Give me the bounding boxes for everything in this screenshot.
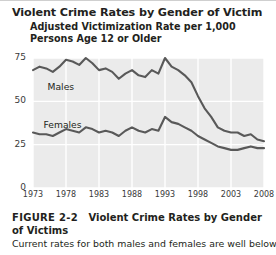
x-tick-1973: 1973 <box>18 190 48 199</box>
line-chart <box>0 54 276 200</box>
series-label-males: Males <box>48 81 75 92</box>
x-tick-1993: 1993 <box>150 190 180 199</box>
y-tick-50: 50 <box>4 95 26 105</box>
caption-figure-number: FIGURE 2-2 <box>12 212 78 223</box>
caption-body: Current rates for both males and females… <box>12 238 270 250</box>
chart-title: Violent Crime Rates by Gender of Victim <box>12 6 262 19</box>
figure-page: Violent Crime Rates by Gender of Victim … <box>0 0 276 255</box>
x-tick-1998: 1998 <box>183 190 213 199</box>
x-tick-2003: 2003 <box>216 190 246 199</box>
chart-subtitle: Adjusted Victimization Rate per 1,000 Pe… <box>30 21 270 44</box>
x-tick-1988: 1988 <box>117 190 147 199</box>
y-tick-75: 75 <box>4 52 26 62</box>
x-tick-2008: 2008 <box>249 190 276 199</box>
top-divider <box>0 0 276 1</box>
chart-plot-area: 75 50 25 0 19731978198319881993199820032… <box>0 54 276 200</box>
y-tick-25: 25 <box>4 139 26 149</box>
figure-caption: FIGURE 2-2 Violent Crime Rates by Gender… <box>12 212 270 250</box>
caption-heading: FIGURE 2-2 Violent Crime Rates by Gender… <box>12 212 270 237</box>
x-tick-1978: 1978 <box>51 190 81 199</box>
series-label-females: Females <box>44 119 82 130</box>
x-tick-1983: 1983 <box>84 190 114 199</box>
